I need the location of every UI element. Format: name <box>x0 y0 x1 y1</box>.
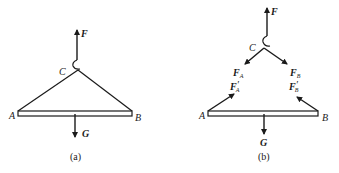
free-body-diagram: F C A B G (a) F C FA FB F′A F′B A <box>0 0 339 173</box>
label-fb: FB <box>289 67 301 79</box>
label-fa: FA <box>232 67 244 79</box>
label-f: F <box>80 28 88 39</box>
label-a: A <box>198 110 206 121</box>
panel-b: F C FA FB F′A F′B A B G (b) <box>198 6 328 163</box>
label-g: G <box>260 137 268 148</box>
label-c: C <box>59 66 66 77</box>
caption-b: (b) <box>258 151 270 163</box>
label-g: G <box>82 128 90 139</box>
label-a: A <box>8 110 16 121</box>
cable-cb <box>78 70 132 111</box>
force-fa-prime-arrow <box>208 94 234 111</box>
cable-ca <box>18 70 78 111</box>
label-fb-prime: F′B <box>288 79 299 93</box>
beam-ab <box>208 111 318 116</box>
panel-a: F C A B G (a) <box>8 28 141 163</box>
force-fb-prime-arrow <box>297 97 318 111</box>
label-fa-prime: F′A <box>229 79 240 93</box>
hook-c <box>73 60 80 69</box>
label-b: B <box>322 112 328 123</box>
label-c: C <box>249 42 256 53</box>
force-fb-arrow <box>264 48 287 64</box>
label-f: F <box>270 6 278 17</box>
label-b: B <box>135 112 141 123</box>
caption-a: (a) <box>70 151 81 163</box>
hook-c <box>263 36 270 46</box>
